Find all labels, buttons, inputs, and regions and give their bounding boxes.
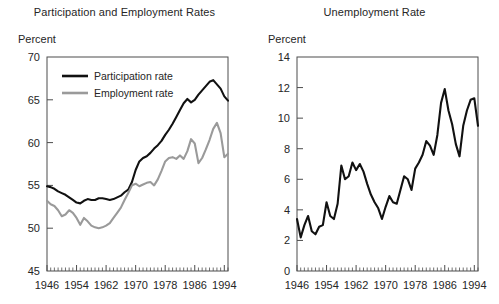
x-tick-label: 1978 [403, 279, 427, 291]
x-tick-label: 1954 [64, 279, 88, 291]
y-tick-label: 14 [278, 51, 290, 63]
y-tick-label: 6 [284, 173, 290, 185]
x-tick-label: 1986 [183, 279, 207, 291]
x-tick-label: 1978 [153, 279, 177, 291]
y-tick-label: 8 [284, 143, 290, 155]
y-tick-label: 0 [284, 265, 290, 277]
panel-unemployment: Unemployment Rate Percent 02468101214194… [250, 0, 499, 304]
x-tick-label: 1994 [462, 279, 486, 291]
y-tick-label: 60 [28, 137, 40, 149]
x-tick-label: 1946 [35, 279, 59, 291]
y-tick-label: 65 [28, 94, 40, 106]
y-tick-label: 70 [28, 51, 40, 63]
x-tick-label: 1954 [314, 279, 338, 291]
x-tick-label: 1970 [373, 279, 397, 291]
y-tick-label: 45 [28, 265, 40, 277]
legend-label: Employment rate [94, 87, 174, 99]
chart-canvas-right: 024681012141946195419621970197819861994 [250, 0, 499, 304]
panel-participation-employment: Participation and Employment Rates Perce… [0, 0, 249, 304]
series-line-unemployment-rate [297, 89, 478, 237]
legend-label: Participation rate [94, 70, 173, 82]
x-tick-label: 1946 [285, 279, 309, 291]
x-tick-label: 1970 [123, 279, 147, 291]
x-tick-label: 1962 [344, 279, 368, 291]
y-tick-label: 4 [284, 204, 290, 216]
y-tick-label: 2 [284, 234, 290, 246]
y-tick-label: 55 [28, 179, 40, 191]
x-tick-label: 1986 [433, 279, 457, 291]
y-tick-label: 50 [28, 222, 40, 234]
y-tick-label: 12 [278, 82, 290, 94]
x-tick-label: 1962 [94, 279, 118, 291]
series-line-employment-rate [47, 123, 228, 228]
figure-two-panel-chart: Participation and Employment Rates Perce… [0, 0, 499, 304]
chart-canvas-left: 4550556065701946195419621970197819861994… [0, 0, 249, 304]
y-tick-label: 10 [278, 112, 290, 124]
x-tick-label: 1994 [212, 279, 236, 291]
